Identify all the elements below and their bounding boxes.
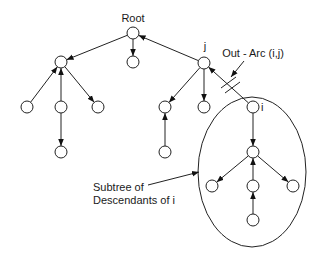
subtree-pointer (148, 172, 199, 185)
out-arc-cut-marks (221, 77, 240, 93)
node-j1 (159, 101, 171, 113)
node-root (127, 27, 139, 39)
node-m2 (247, 180, 259, 192)
edge-a-to-a3 (65, 67, 94, 103)
edge-j-to-j1 (169, 67, 200, 102)
edge-a1-to-a (31, 67, 58, 102)
node-j1c (159, 146, 171, 158)
node-b (127, 56, 139, 68)
node-m3 (287, 180, 299, 192)
node-i (247, 101, 259, 113)
edge-root-to-a (67, 35, 128, 60)
tree-diagram: Root j i Out - Arc (i,j) Subtree of Desc… (0, 0, 318, 257)
edge-m-to-m3 (258, 156, 289, 182)
node-a3 (92, 101, 104, 113)
node-a2c (55, 146, 67, 158)
node-i-label: i (261, 101, 263, 113)
out-arc-label: Out - Arc (i,j) (222, 47, 284, 59)
node-j-label: j (203, 40, 206, 52)
out-arc-pointer (231, 61, 244, 77)
edge-j-to-root (139, 35, 199, 60)
edge-i-to-j (208, 67, 248, 103)
node-m1 (206, 180, 218, 192)
root-label: Root (121, 12, 144, 24)
subtree-label-line2: Descendants of i (93, 194, 175, 206)
node-m2c (247, 214, 259, 226)
node-a2 (55, 101, 67, 113)
node-j2 (198, 101, 210, 113)
edge-m-to-m1 (217, 156, 249, 182)
node-j (198, 57, 210, 69)
subtree-label-line1: Subtree of (93, 181, 145, 193)
node-m (247, 146, 259, 158)
node-a (55, 56, 67, 68)
node-a1 (21, 101, 33, 113)
